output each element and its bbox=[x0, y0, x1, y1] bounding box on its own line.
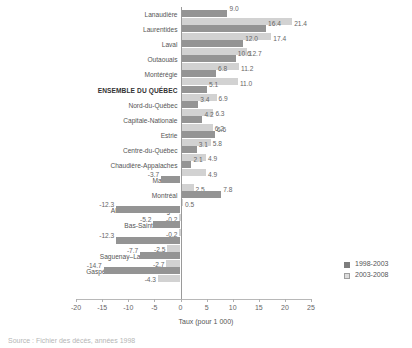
x-axis-tick bbox=[259, 299, 260, 302]
bar-value-label: 3.4 bbox=[200, 96, 209, 103]
bar-value-label: 9.0 bbox=[229, 5, 238, 12]
bar-1998-2003 bbox=[181, 55, 236, 62]
x-axis-tick bbox=[285, 299, 286, 302]
bar-value-label: 6.6 bbox=[217, 126, 226, 133]
x-axis-tick bbox=[311, 299, 312, 302]
bar-1998-2003 bbox=[181, 161, 192, 168]
category-label: ENSEMBLE DU QUÉBEC bbox=[0, 87, 178, 95]
bar-value-label: 7.8 bbox=[223, 186, 232, 193]
category-label: Chaudière-Appalaches bbox=[0, 162, 178, 170]
legend-swatch-icon bbox=[344, 262, 350, 268]
bar-value-label: 2.1 bbox=[193, 156, 202, 163]
category-label: Estrie bbox=[0, 132, 178, 140]
bar-value-label: -12.3 bbox=[99, 201, 114, 208]
category-label: Outaouais bbox=[0, 56, 178, 64]
legend-label: 1998-2003 bbox=[355, 260, 388, 267]
category-label: Montérégie bbox=[0, 71, 178, 79]
x-axis-tick-label: 25 bbox=[296, 304, 326, 311]
bar-1998-2003 bbox=[153, 221, 180, 228]
x-axis-tick bbox=[128, 299, 129, 302]
bar-1998-2003 bbox=[181, 10, 228, 17]
x-axis-tick bbox=[207, 299, 208, 302]
category-label: Laurentides bbox=[0, 26, 178, 34]
bar-1998-2003 bbox=[181, 101, 199, 108]
category-label: Lanaudière bbox=[0, 11, 178, 19]
bar-value-label: -3.7 bbox=[148, 171, 159, 178]
bar-value-label: 5.1 bbox=[209, 81, 218, 88]
category-label: Montréal bbox=[0, 192, 178, 200]
zero-line bbox=[181, 7, 182, 299]
legend-label: 2003-2008 bbox=[355, 271, 388, 278]
bar-1998-2003 bbox=[104, 267, 181, 274]
x-axis-line bbox=[76, 299, 311, 300]
x-axis-tick bbox=[102, 299, 103, 302]
x-axis-tick bbox=[181, 299, 182, 302]
bar-2003-2008 bbox=[158, 275, 180, 282]
bar-1998-2003 bbox=[181, 191, 222, 198]
bar-1998-2003 bbox=[181, 116, 203, 123]
x-axis-title: Taux (pour 1 000) bbox=[0, 318, 412, 325]
chart-container: Lanaudière9.021.4Laurentides16.417.4Lava… bbox=[0, 0, 412, 348]
bar-value-label: -12.3 bbox=[99, 232, 114, 239]
x-axis-tick bbox=[154, 299, 155, 302]
bar-1998-2003 bbox=[181, 70, 216, 77]
bar-value-label: 12.0 bbox=[245, 35, 258, 42]
bar-1998-2003 bbox=[161, 176, 180, 183]
bar-value-label: 10.6 bbox=[238, 50, 251, 57]
bar-value-label: 4.2 bbox=[204, 111, 213, 118]
bar-1998-2003 bbox=[116, 237, 180, 244]
bar-1998-2003 bbox=[181, 25, 267, 32]
bar-value-label: 3.1 bbox=[199, 141, 208, 148]
bar-1998-2003 bbox=[116, 206, 180, 213]
category-label: Nord-du-Québec bbox=[0, 102, 178, 110]
bar-value-label: -4.3 bbox=[145, 276, 156, 283]
bar-1998-2003 bbox=[181, 40, 244, 47]
bar-1998-2003 bbox=[181, 86, 208, 93]
legend-swatch-icon bbox=[344, 273, 350, 279]
bar-1998-2003 bbox=[181, 146, 197, 153]
x-axis-tick bbox=[76, 299, 77, 302]
chart-row: Gaspésie–Îles-de-la-Madeleine-14.7-4.3 bbox=[0, 266, 412, 285]
bar-value-label: -7.7 bbox=[127, 247, 138, 254]
source-note: Source : Fichier des décès, années 1998 bbox=[8, 337, 135, 344]
category-label: Mauricie bbox=[0, 177, 178, 185]
bar-value-label: 6.8 bbox=[218, 65, 227, 72]
category-label: Centre-du-Québec bbox=[0, 147, 178, 155]
category-label: Bas-Saint-Laurent bbox=[0, 222, 178, 230]
category-label: Laval bbox=[0, 41, 178, 49]
bar-value-label: -5.2 bbox=[140, 216, 151, 223]
bar-1998-2003 bbox=[181, 131, 215, 138]
category-label: Capitale-Nationale bbox=[0, 117, 178, 125]
plot-area: Lanaudière9.021.4Laurentides16.417.4Lava… bbox=[0, 0, 412, 348]
bar-value-label: 16.4 bbox=[268, 20, 281, 27]
bar-value-label: -14.7 bbox=[87, 262, 102, 269]
bar-1998-2003 bbox=[140, 252, 180, 259]
x-axis-tick bbox=[233, 299, 234, 302]
